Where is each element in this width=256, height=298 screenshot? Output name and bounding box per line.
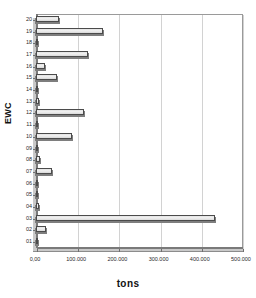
bar	[36, 145, 38, 151]
y-tick-label-wrap: 02	[16, 226, 32, 234]
bar	[36, 63, 45, 69]
y-tick-label-wrap: 01	[16, 238, 32, 246]
y-tick-label: 12	[18, 109, 32, 115]
y-tick-label: 18	[18, 39, 32, 45]
bar	[36, 39, 38, 45]
bar	[36, 215, 215, 221]
x-axis-line	[37, 247, 243, 249]
y-axis-line	[36, 14, 38, 248]
bar	[36, 74, 57, 80]
y-tick-label-wrap: 13	[16, 98, 32, 106]
y-tick-label: 13	[18, 98, 32, 104]
y-tick-label: 15	[18, 74, 32, 80]
y-tick-label-wrap: 19	[16, 28, 32, 36]
bar	[36, 238, 38, 244]
bar	[36, 191, 38, 197]
y-tick-label-wrap: 18	[16, 39, 32, 47]
y-tick-label-wrap: 09	[16, 145, 32, 153]
y-tick-label: 20	[18, 16, 32, 22]
x-gridline	[243, 15, 244, 249]
x-tick-mark	[119, 249, 120, 252]
y-axis-title: EWC	[3, 110, 13, 124]
y-tick-label: 14	[18, 86, 32, 92]
y-tick-label-wrap: 04	[16, 203, 32, 211]
y-tick-label: 17	[18, 51, 32, 57]
y-tick-label-wrap: 06	[16, 180, 32, 188]
x-tick-label: 0,00	[13, 256, 57, 262]
y-tick-label: 03	[18, 215, 32, 221]
x-tick-label: 200.000	[95, 256, 139, 262]
x-tick-label: 500.000	[219, 256, 256, 262]
bar	[36, 203, 39, 209]
x-tick-label: 400.000	[178, 256, 222, 262]
bar	[36, 109, 84, 115]
y-tick-label-wrap: 16	[16, 63, 32, 71]
y-tick-label-wrap: 20	[16, 16, 32, 24]
bar	[36, 86, 38, 92]
bar	[36, 168, 52, 174]
plot-area	[37, 14, 243, 248]
x-tick-label: 100.000	[54, 256, 98, 262]
bar	[36, 121, 38, 127]
y-tick-label: 10	[18, 133, 32, 139]
y-tick-label: 02	[18, 226, 32, 232]
y-tick-label-wrap: 03	[16, 215, 32, 223]
bar	[36, 156, 40, 162]
bar	[36, 16, 59, 22]
y-tick-label-wrap: 12	[16, 109, 32, 117]
x-tick-mark	[161, 249, 162, 252]
bar	[36, 51, 88, 57]
x-tick-mark	[202, 249, 203, 252]
bar-chart: 0102030405060708091011121314151617181920…	[0, 0, 256, 298]
y-tick-label: 07	[18, 168, 32, 174]
y-tick-label: 04	[18, 203, 32, 209]
y-tick-label-wrap: 17	[16, 51, 32, 59]
y-tick-label: 16	[18, 63, 32, 69]
x-tick-label: 300.000	[137, 256, 181, 262]
y-tick-label: 11	[18, 121, 32, 127]
x-tick-mark	[243, 249, 244, 252]
bar	[36, 98, 39, 104]
x-tick-mark	[37, 249, 38, 252]
y-tick-label-wrap: 15	[16, 74, 32, 82]
bar	[36, 226, 46, 232]
x-axis-base-line	[33, 251, 243, 252]
y-tick-label: 06	[18, 180, 32, 186]
x-axis-title: tons	[0, 278, 256, 289]
y-tick-label-wrap: 10	[16, 133, 32, 141]
y-tick-label-wrap: 07	[16, 168, 32, 176]
y-tick-label: 08	[18, 156, 32, 162]
y-tick-label: 01	[18, 238, 32, 244]
y-tick-label-wrap: 08	[16, 156, 32, 164]
y-tick-label-wrap: 05	[16, 191, 32, 199]
y-tick-label: 09	[18, 145, 32, 151]
bar	[36, 28, 103, 34]
y-tick-label-wrap: 14	[16, 86, 32, 94]
x-tick-mark	[78, 249, 79, 252]
y-tick-label-wrap: 11	[16, 121, 32, 129]
bar	[36, 180, 38, 186]
y-tick-label: 19	[18, 28, 32, 34]
y-tick-label: 05	[18, 191, 32, 197]
bar	[36, 133, 72, 139]
